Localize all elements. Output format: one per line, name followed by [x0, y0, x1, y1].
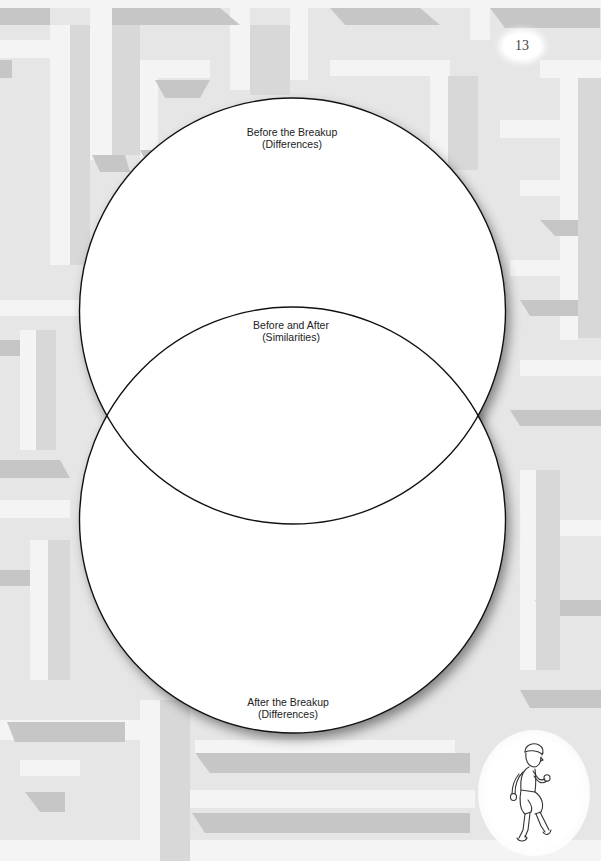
bottom-circle-title: After the Breakup: [188, 696, 388, 708]
bottom-circle-subtitle: (Differences): [188, 708, 388, 720]
overlap-label: Before and After (Similarities): [191, 319, 391, 343]
bottom-circle-label: After the Breakup (Differences): [188, 696, 388, 720]
overlap-title: Before and After: [191, 319, 391, 331]
top-circle-title: Before the Breakup: [192, 126, 392, 138]
top-circle-label: Before the Breakup (Differences): [192, 126, 392, 150]
overlap-subtitle: (Similarities): [191, 331, 391, 343]
top-circle-subtitle: (Differences): [192, 138, 392, 150]
walking-boy-icon: [495, 740, 565, 850]
